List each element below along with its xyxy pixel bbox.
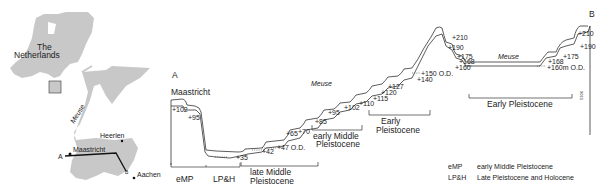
border-line (82, 66, 92, 72)
elevation-label: +102 (344, 104, 360, 111)
elevation-label: +190 (580, 43, 596, 50)
city-label-maastricht: Maastricht (73, 146, 105, 153)
bracket-emp-lph (171, 163, 240, 167)
limburg-map: Meuse Heerlen Maastricht Aachen A B (58, 66, 161, 180)
elevation-label: +160 (455, 64, 471, 71)
period-label: Pleistocene (316, 139, 360, 149)
city-label-heerlen: Heerlen (100, 132, 125, 139)
limburg-shape (70, 66, 150, 180)
elevation-label: +35 (236, 154, 248, 161)
netherlands-map: The Netherlands (10, 12, 94, 93)
elevation-label: +210 (452, 34, 468, 41)
legend-text: Late Pleistocene and Holocene (477, 174, 574, 181)
city-marker-heerlen (121, 140, 123, 142)
legend: eMP early Middle Pleistocene LP&H Late P… (448, 163, 574, 181)
period-label: eMP (176, 174, 194, 184)
period-label: LP&H (213, 174, 235, 184)
elevation-label: +160m O.D. (547, 64, 585, 71)
netherlands-shape (10, 12, 94, 78)
elevation-label: +140 (417, 76, 433, 83)
figure-code: 5306 (579, 90, 584, 100)
period-label: Pleistocene (376, 125, 420, 135)
elevation-label: +190 (448, 44, 464, 51)
period-label: Pleistocene (250, 176, 294, 186)
bracket-late-middle (241, 162, 318, 166)
elevation-label: +115 (373, 95, 388, 102)
legend-abbr: LP&H (448, 174, 466, 181)
meuse-terrace-diagram: The Netherlands Meuse Heerlen Maastricht… (0, 0, 600, 187)
legend-text: early Middle Pleistocene (477, 163, 553, 171)
city-label-aachen: Aachen (137, 171, 161, 178)
cross-section: A B Maastricht +102 +95 +35 +42 +47 O.D.… (171, 9, 596, 186)
elevation-label: +95 (188, 114, 200, 121)
city-marker-aachen (133, 177, 136, 180)
elevation-label: +102 (172, 106, 188, 113)
inset-locator-box (49, 81, 61, 93)
legend-abbr: eMP (448, 163, 463, 170)
end-label-b: B (589, 9, 595, 19)
elevation-label: +95 (328, 109, 340, 116)
bracket-early (369, 110, 430, 115)
elevation-label: +127 (388, 83, 404, 90)
elevation-label: +150 O.D. (421, 70, 453, 77)
bracket-early-pleistocene (469, 94, 572, 98)
river-label: Meuse (311, 80, 332, 87)
river-label: Meuse (498, 53, 519, 60)
elevation-label: +210 (578, 30, 594, 37)
elevation-label: +65 (286, 130, 298, 137)
period-label: Early Pleistocene (487, 99, 553, 109)
section-point-b: B (125, 169, 129, 175)
start-place-label: Maastricht (171, 87, 211, 97)
elevation-label: +120 (381, 89, 397, 96)
elevation-label: +175 (563, 53, 579, 60)
country-label: Netherlands (14, 50, 60, 60)
end-label-a: A (172, 70, 178, 80)
elevation-label: +70 (298, 128, 310, 135)
section-point-a: A (58, 153, 63, 160)
elevation-label: +47 O.D. (277, 144, 305, 151)
elevation-label: +85 (315, 118, 327, 125)
elevation-label: +42 (262, 148, 274, 155)
